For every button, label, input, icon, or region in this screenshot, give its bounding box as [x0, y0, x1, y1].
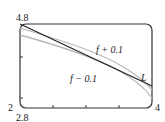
lower-curve — [20, 35, 152, 98]
upper-curve-label: f + 0.1 — [96, 44, 123, 55]
y-min-label: 2.8 — [16, 112, 29, 122]
chart: 4.8 2 2.8 4 f + 0.1 f − 0.1 L — [0, 0, 165, 122]
y-max-label: 4.8 — [16, 12, 29, 23]
line-label: L — [140, 72, 147, 83]
plot-frame — [20, 24, 152, 108]
lower-curve-label: f − 0.1 — [70, 73, 97, 84]
x-min-label: 2 — [8, 102, 13, 113]
x-max-label: 4 — [155, 102, 160, 113]
